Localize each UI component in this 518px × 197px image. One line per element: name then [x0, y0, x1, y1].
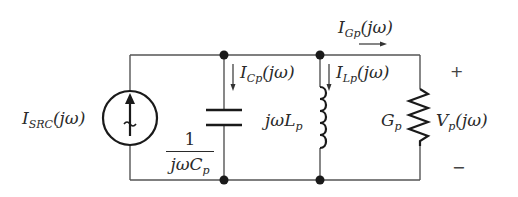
ind-impedance-sub: p [295, 120, 302, 133]
node-dot [316, 51, 325, 60]
res-current-main: I [338, 17, 345, 37]
ind-current-arg: (jω) [357, 62, 389, 82]
arrow-down-icon [327, 84, 332, 91]
voltage-minus-sign: − [452, 160, 465, 176]
circuit-schematic [0, 0, 518, 197]
cap-den-sub: p [203, 164, 210, 177]
node-dot [220, 176, 229, 185]
conductance-sub: p [395, 120, 402, 133]
conductance-label: Gp [381, 112, 402, 132]
source-label-arg: (jω) [53, 108, 85, 128]
source-label: ISRC(jω) [22, 110, 85, 130]
source-label-main: I [22, 108, 29, 128]
cap-current-sub: Cp [247, 72, 262, 85]
res-current-sub: Gp [345, 27, 361, 40]
source-label-sub: SRC [29, 118, 53, 131]
capacitor-icon [206, 110, 242, 125]
capacitor-impedance-label: 1 jωCp [166, 131, 214, 176]
cap-current-arg: (jω) [262, 62, 294, 82]
capacitor-current-label: ICp(jω) [240, 64, 295, 84]
arrow-right-icon [380, 42, 387, 47]
voltage-main: V [436, 110, 448, 130]
node-dot [220, 51, 229, 60]
ind-current-sub: Lp [343, 72, 357, 85]
inductor-icon [320, 87, 326, 148]
ind-impedance-main: jωL [265, 110, 295, 130]
current-source-icon [103, 91, 157, 145]
cap-impedance-denominator: jωCp [166, 151, 214, 176]
resistor-icon [409, 89, 428, 146]
res-current-arg: (jω) [361, 17, 393, 37]
cap-impedance-numerator: 1 [166, 131, 214, 151]
cap-den-main: jωC [170, 154, 202, 174]
voltage-label: Vp(jω) [436, 112, 488, 132]
inductor-current-label: ILp(jω) [336, 64, 389, 84]
cap-current-main: I [240, 62, 247, 82]
arrow-down-icon [231, 84, 236, 91]
conductance-main: G [381, 110, 395, 130]
voltage-arg: (jω) [455, 110, 487, 130]
node-dot [316, 176, 325, 185]
inductor-impedance-label: jωLp [265, 112, 302, 132]
ind-current-main: I [336, 62, 343, 82]
resistor-current-label: IGp(jω) [338, 19, 393, 39]
voltage-plus-sign: + [450, 64, 463, 80]
